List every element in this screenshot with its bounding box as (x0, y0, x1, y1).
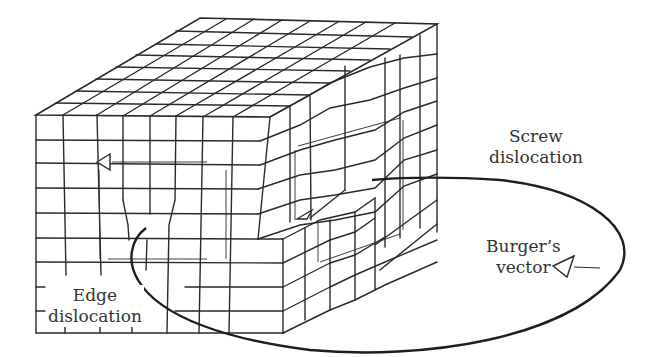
dislocation-diagram: Screw dislocation Edge dislocation Burge… (0, 0, 657, 357)
screw-label-line1: Screw (489, 126, 583, 147)
top-face-grid (36, 18, 437, 117)
screw-label-line2: dislocation (489, 147, 583, 168)
burgers-circuit-arrows (97, 118, 403, 262)
edge-label-line2: dislocation (48, 306, 142, 327)
screw-dislocation-label: Screw dislocation (487, 126, 585, 168)
burgers-label-line2: vector (486, 257, 561, 278)
edge-dislocation-label: Edge dislocation (46, 285, 144, 327)
edge-label-line1: Edge (48, 285, 142, 306)
burgers-vector-label: Burger’s vector (484, 236, 563, 278)
burgers-label-line1: Burger’s (486, 236, 561, 257)
